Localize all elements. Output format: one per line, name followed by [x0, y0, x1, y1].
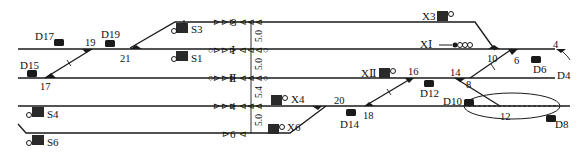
- shunting-signal-icon[interactable]: [27, 70, 37, 77]
- signal-icon-XII[interactable]: [379, 68, 396, 78]
- switch-mark-14: [455, 78, 466, 82]
- signal-D10: D10: [443, 95, 462, 107]
- signal-icon-S4[interactable]: [27, 107, 45, 118]
- signal-S1: S1: [191, 52, 203, 64]
- signal-icon-XI[interactable]: [439, 43, 473, 48]
- signal-S3: S3: [191, 23, 203, 35]
- switch-mark-18: [365, 102, 374, 106]
- signal-D14: D14: [340, 118, 359, 130]
- switch-mark-10: [488, 45, 500, 49]
- signal-D8: D8: [555, 118, 569, 130]
- switch-17: 17: [40, 81, 51, 92]
- shunting-signal-icon[interactable]: [531, 56, 541, 63]
- signal-D15: D15: [20, 59, 39, 71]
- signal-S4: S4: [47, 108, 59, 120]
- insulation-joint: [491, 64, 495, 70]
- arrow-left-icon: ⊲⊲⊲○: [239, 45, 268, 55]
- signal-icon-S1[interactable]: [172, 51, 189, 62]
- signal-D17: D17: [35, 30, 54, 42]
- station-track-diagram: ⊳⊳⊳ 3 ⊲⊲⊲ ○⊳⊳⊳ Ⅰ ⊲⊲⊲○ ○⊳⊳⊳ Ⅱ ⊲⊲⊲○ ⊳⊳⊳ 4 …: [0, 0, 583, 157]
- switch-mark-17: [45, 73, 56, 78]
- switch-mark-16: [405, 78, 414, 83]
- track-label-3: 3: [231, 16, 237, 28]
- signal-D6: D6: [533, 63, 547, 75]
- switch-20: 20: [334, 95, 345, 106]
- signal-D4: D4: [557, 69, 571, 81]
- switch-10: 10: [487, 53, 498, 64]
- switch-8: 8: [466, 79, 471, 90]
- signal-icon-S6[interactable]: [27, 135, 45, 146]
- spacing-I-II: 5.0: [254, 58, 264, 70]
- switch-19: 19: [85, 37, 96, 48]
- switch-6: 6: [514, 55, 519, 66]
- spacing-3-I: 5.0: [254, 30, 264, 42]
- signal-icon-X4[interactable]: [271, 95, 288, 105]
- switch-21: 21: [120, 53, 131, 64]
- signal-XII: XⅡ: [361, 67, 376, 79]
- crossover-17-19: [45, 49, 92, 78]
- spacing-II-4: 5.4: [254, 86, 264, 98]
- track-label-I: Ⅰ: [231, 44, 235, 56]
- signal-D12: D12: [420, 87, 439, 99]
- signal-D19: D19: [101, 28, 120, 40]
- switch-18: 18: [363, 110, 374, 121]
- arrow-left-icon: ⊲: [239, 129, 247, 139]
- signal-icon-X3[interactable]: [437, 11, 454, 21]
- shunting-signal-icon[interactable]: [424, 80, 434, 87]
- signal-X6: X6: [287, 121, 301, 133]
- arrow-left-icon: ⊲⊲⊲○: [239, 73, 268, 83]
- shunting-signal-icon[interactable]: [105, 40, 115, 47]
- arrow-right-icon: ⊳: [222, 129, 230, 139]
- switch-14: 14: [450, 67, 461, 78]
- signal-S6: S6: [47, 136, 59, 148]
- signal-XI: XⅠ: [420, 38, 432, 50]
- shunting-signal-icon[interactable]: [54, 39, 64, 46]
- shunting-signal-icon[interactable]: [464, 99, 474, 106]
- switch-numbers: 19 21 17 10 6 4 16 14 8 20 18 12: [40, 37, 559, 122]
- signal-X4: X4: [291, 93, 305, 105]
- signal-X3: X3: [422, 10, 436, 22]
- track-label-6: 6: [230, 128, 236, 140]
- switch-4: 4: [553, 39, 559, 50]
- shunting-signal-icon[interactable]: [346, 109, 356, 116]
- switch-12: 12: [500, 111, 511, 122]
- track-label-II: Ⅱ: [229, 72, 236, 84]
- spacing-4-6: 5.0: [254, 114, 264, 126]
- switch-16: 16: [408, 66, 419, 77]
- shunting-signals: D17 D19 D15 D6 D4 D12 D10 D14 D8: [20, 28, 571, 130]
- track-label-4: 4: [230, 100, 236, 112]
